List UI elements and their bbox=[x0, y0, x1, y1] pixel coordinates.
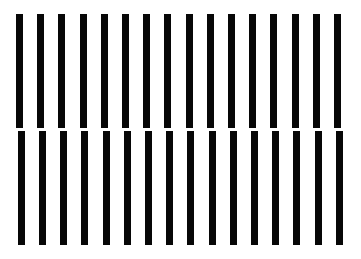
bar-segment-upper bbox=[334, 14, 341, 128]
bar-segment-upper bbox=[143, 14, 150, 128]
bar-segment-upper bbox=[207, 14, 214, 128]
bar-segment-upper bbox=[122, 14, 129, 128]
bar-segment-lower bbox=[124, 131, 131, 245]
bar-segment-lower bbox=[145, 131, 152, 245]
bar-segment-lower bbox=[166, 131, 173, 245]
bar-segment-lower bbox=[39, 131, 46, 245]
bar-segment-lower bbox=[18, 131, 25, 245]
bar-segment-upper bbox=[186, 14, 193, 128]
bar-segment-lower bbox=[103, 131, 110, 245]
bar-segment-lower bbox=[209, 131, 216, 245]
bar-segment-upper bbox=[228, 14, 235, 128]
bar-segment-upper bbox=[292, 14, 299, 128]
bar-segment-lower bbox=[293, 131, 300, 245]
bar-segment-lower bbox=[336, 131, 343, 245]
bar-segment-upper bbox=[101, 14, 108, 128]
bar-segment-lower bbox=[251, 131, 258, 245]
bar-segment-lower bbox=[315, 131, 322, 245]
bar-segment-upper bbox=[80, 14, 87, 128]
bar-segment-upper bbox=[37, 14, 44, 128]
bar-segment-lower bbox=[81, 131, 88, 245]
bar-segment-upper bbox=[313, 14, 320, 128]
bar-segment-lower bbox=[230, 131, 237, 245]
bar-grating-group bbox=[0, 0, 361, 259]
bar-segment-lower bbox=[272, 131, 279, 245]
bar-segment-upper bbox=[58, 14, 65, 128]
bar-segment-upper bbox=[249, 14, 256, 128]
bar-segment-upper bbox=[16, 14, 23, 128]
figure-canvas bbox=[0, 0, 361, 259]
bar-segment-lower bbox=[187, 131, 194, 245]
bar-segment-lower bbox=[60, 131, 67, 245]
bar-segment-upper bbox=[270, 14, 277, 128]
bar-segment-upper bbox=[164, 14, 171, 128]
